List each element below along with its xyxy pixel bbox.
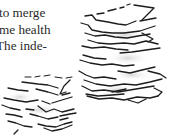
paper-stacks-illustration	[0, 0, 174, 139]
short-paper-stack	[2, 75, 76, 134]
tall-paper-stack	[79, 4, 166, 103]
